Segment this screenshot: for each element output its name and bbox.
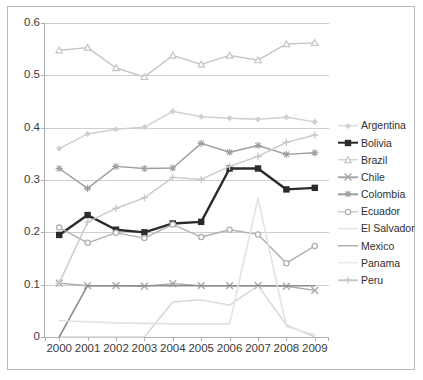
data-point-marker (170, 222, 175, 227)
data-point-marker (84, 212, 90, 218)
data-point-marker (312, 185, 318, 191)
x-tick-mark (258, 337, 259, 341)
data-point-marker (312, 119, 318, 125)
x-tick-mark (144, 337, 145, 341)
chart-frame: 00.10.20.30.40.50.6 20002001200220032004… (7, 6, 415, 370)
data-point-marker (85, 131, 91, 137)
legend-swatch-icon (338, 154, 358, 166)
data-point-marker (283, 151, 290, 158)
series-line (59, 111, 315, 148)
legend-swatch-icon (338, 240, 358, 252)
y-axis-label: 0.3 (24, 174, 40, 186)
data-point-marker (56, 165, 63, 172)
data-point-marker (112, 163, 119, 170)
data-point-marker (170, 108, 176, 114)
x-axis-label: 2000 (46, 343, 72, 355)
y-tick-mark (41, 75, 45, 76)
data-point-marker (312, 243, 317, 248)
legend-swatch-icon (338, 171, 358, 183)
data-point-marker (284, 261, 289, 266)
data-point-marker (226, 149, 233, 156)
legend-swatch-icon (338, 120, 358, 132)
legend-item-chile[interactable]: Chile (338, 169, 416, 186)
legend-swatch-icon (338, 274, 358, 286)
data-point-marker (254, 142, 261, 149)
data-point-marker (56, 232, 62, 238)
chart-plot-wrapper: 00.10.20.30.40.50.6 20002001200220032004… (8, 7, 416, 371)
data-point-marker (56, 47, 62, 53)
x-tick-mark (88, 337, 89, 341)
legend-item-peru[interactable]: Peru (338, 272, 416, 289)
legend-item-el-salvador[interactable]: El Salvador (338, 220, 416, 237)
data-point-marker (84, 185, 91, 192)
data-point-marker (170, 52, 176, 58)
legend-item-label: Panama (361, 258, 400, 269)
y-axis-label: 0.6 (24, 17, 40, 29)
series-line (59, 286, 315, 337)
data-point-marker (169, 164, 176, 171)
x-axis-label: 2002 (103, 343, 129, 355)
x-tick-mark (230, 337, 231, 341)
y-axis-label: 0.1 (24, 279, 40, 291)
series-line (59, 198, 315, 335)
y-tick-mark (41, 180, 45, 181)
data-point-marker (344, 191, 351, 198)
legend-item-panama[interactable]: Panama (338, 255, 416, 272)
legend-swatch-icon (338, 137, 358, 149)
y-tick-mark (41, 232, 45, 233)
legend-item-ecuador[interactable]: Ecuador (338, 203, 416, 220)
legend-item-mexico[interactable]: Mexico (338, 237, 416, 254)
series-line (59, 43, 315, 77)
data-point-marker (198, 114, 204, 120)
data-point-marker (345, 140, 351, 146)
x-axis-label: 2003 (132, 343, 158, 355)
data-point-marker (283, 114, 289, 120)
data-point-marker (312, 40, 318, 46)
data-point-marker (199, 234, 204, 239)
x-tick-mark (328, 337, 329, 341)
legend-item-bolivia[interactable]: Bolivia (338, 134, 416, 151)
data-point-marker (198, 219, 204, 225)
y-axis-label: 0.5 (24, 70, 40, 82)
data-point-marker (255, 232, 260, 237)
data-point-marker (311, 131, 318, 138)
x-tick-mark (59, 337, 60, 341)
data-point-marker (255, 116, 261, 122)
y-axis-label: 0.2 (24, 227, 40, 239)
data-point-marker (254, 153, 261, 160)
x-tick-mark (116, 337, 117, 341)
data-point-marker (345, 209, 350, 214)
data-point-marker (198, 140, 205, 147)
x-tick-mark (201, 337, 202, 341)
data-point-marker (344, 277, 351, 284)
data-point-marker (345, 122, 351, 128)
data-point-marker (345, 174, 352, 181)
series-line (59, 135, 315, 283)
y-axis-label: 0 (34, 331, 40, 343)
legend-item-argentina[interactable]: Argentina (338, 117, 416, 134)
y-tick-mark (41, 128, 45, 129)
legend-item-label: Argentina (361, 120, 406, 131)
data-point-marker (227, 115, 233, 121)
data-point-marker (84, 218, 91, 225)
x-axis-label: 2001 (75, 343, 101, 355)
data-point-marker (141, 124, 147, 130)
data-point-marker (57, 225, 62, 230)
data-point-marker (311, 149, 318, 156)
legend-item-brazil[interactable]: Brazil (338, 151, 416, 168)
legend-item-label: Chile (361, 172, 385, 183)
x-tick-mark (315, 337, 316, 341)
y-tick-mark (41, 285, 45, 286)
plot-area: 00.10.20.30.40.50.6 20002001200220032004… (44, 23, 329, 338)
series-line (59, 224, 315, 263)
legend-swatch-icon (338, 206, 358, 218)
legend-item-label: Mexico (361, 241, 394, 252)
legend-item-label: Peru (361, 275, 383, 286)
y-axis-label: 0.4 (24, 122, 40, 134)
data-point-marker (113, 230, 118, 235)
data-point-marker (255, 57, 261, 63)
legend-item-colombia[interactable]: Colombia (338, 186, 416, 203)
data-point-marker (198, 176, 205, 183)
x-axis-label: 2004 (160, 343, 186, 355)
data-point-marker (283, 41, 289, 47)
